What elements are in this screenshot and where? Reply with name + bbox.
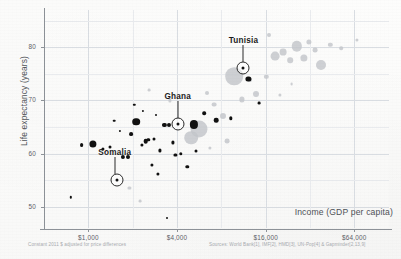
y-tick [41,207,44,208]
data-point [214,118,219,123]
data-point [356,39,359,42]
x-gridline [88,10,89,228]
y-tick-label-0: 50 [22,203,36,210]
data-point [90,140,97,147]
annotation-dot-ghana [176,123,179,126]
annotation-dot-tunisia [242,67,245,70]
y-tick-label-1: 60 [22,150,36,157]
annotation-label-tunisia: Tunisia [229,36,258,45]
y-gridline [44,154,389,155]
y-gridline-minor [44,180,389,181]
data-point [258,102,261,105]
data-point [80,143,84,147]
data-point [171,141,174,144]
y-tick [41,100,44,101]
x-tick-label-0: $1,000 [58,234,118,241]
data-point [225,138,230,143]
data-point [128,186,131,189]
data-point [208,147,211,150]
x-tick [266,229,267,232]
footnote-left: Constant 2011 $ adjusted for price diffe… [28,242,126,247]
y-gridline-minor [44,74,389,75]
data-point [300,54,307,61]
data-point [139,200,142,203]
data-point [220,113,226,119]
x-tick [177,229,178,232]
data-point [202,111,206,115]
data-point [129,132,133,136]
x-tick-label-1: $4,000 [147,234,207,241]
y-tick [41,47,44,48]
data-point [205,91,209,95]
annotation-leader-tunisia [243,45,244,62]
data-point [133,118,141,126]
data-point [278,93,281,96]
annotation-dot-somalia [115,179,118,182]
data-point [156,172,159,175]
annotation-label-somalia: Somalia [98,148,131,157]
chart-figure: Life expectancy (years) Income (GDP per … [0,0,401,259]
data-point [271,51,280,60]
x-gridline [354,10,355,228]
data-point [211,102,216,107]
y-gridline [44,100,389,101]
data-point [290,83,293,86]
y-tick [41,154,44,155]
plot-area [44,10,389,228]
annotation-label-ghana: Ghana [165,92,191,101]
data-point [328,42,332,46]
data-point [264,75,268,79]
data-point [113,119,116,122]
data-point [184,131,198,145]
x-tick [354,229,355,232]
data-point [142,110,144,112]
y-axis-line [44,8,45,230]
data-point [253,91,259,97]
data-point [147,138,150,141]
y-gridline-minor [44,127,389,128]
x-tick-label-3: $64,000 [324,234,384,241]
data-point [158,149,161,152]
annotation-leader-ghana [177,101,178,118]
data-point [186,165,189,168]
y-gridline [44,47,389,48]
x-axis-title: Income (GDP per capita) [295,207,393,217]
data-point [150,163,153,166]
data-point [280,49,287,56]
y-tick-label-3: 80 [22,43,36,50]
data-point [292,41,302,51]
data-point [166,217,168,219]
x-axis-line [40,229,392,230]
data-point [312,48,317,53]
data-point [195,150,198,153]
data-point [148,88,151,91]
y-gridline-minor [44,21,389,22]
data-point [179,152,182,155]
x-gridline [266,10,267,228]
footnote-right: Sources: World Bank[1], IMF[2], HMD[3], … [209,242,365,247]
x-tick-label-2: $16,000 [236,234,296,241]
data-point [70,196,72,198]
data-point [339,46,343,50]
data-point [316,60,326,70]
x-tick [88,229,89,232]
annotation-leader-somalia [114,157,115,174]
y-tick-label-2: 70 [22,96,36,103]
data-point [140,143,143,146]
data-point [229,117,232,120]
data-point [267,33,271,37]
data-point [153,137,156,140]
data-point [118,130,120,132]
data-point [155,114,157,116]
data-point [287,57,293,63]
